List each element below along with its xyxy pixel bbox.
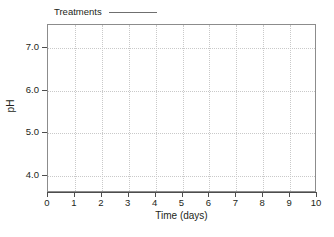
y-axis-tick [42, 90, 47, 91]
gridline-vertical [129, 25, 130, 191]
gridline-vertical [209, 25, 210, 191]
y-axis-tick-label: 7.0 [5, 41, 39, 52]
x-axis-tick-label: 1 [59, 197, 89, 208]
x-axis-tick-label: 3 [113, 197, 143, 208]
gridline-vertical [236, 25, 237, 191]
x-axis-tick-label: 6 [193, 197, 223, 208]
x-axis-title: Time (days) [47, 210, 316, 222]
x-axis-tick-label: 10 [301, 197, 331, 208]
gridline-horizontal [48, 48, 315, 49]
x-axis-tick-label: 2 [86, 197, 116, 208]
x-axis-tick-label: 5 [167, 197, 197, 208]
y-axis-title: pH [5, 98, 17, 114]
chart-figure: Treatments Time (days) pH 0123456789104.… [0, 0, 334, 237]
legend-line-swatch [109, 12, 157, 13]
gridline-vertical [75, 25, 76, 191]
y-axis-tick [42, 175, 47, 176]
legend-label-treatments: Treatments [54, 6, 102, 17]
gridline-vertical [263, 25, 264, 191]
gridline-vertical [156, 25, 157, 191]
plot-area [47, 24, 316, 192]
gridline-horizontal [48, 176, 315, 177]
gridline-vertical [102, 25, 103, 191]
gridline-vertical [183, 25, 184, 191]
gridline-vertical [290, 25, 291, 191]
y-axis-tick [42, 47, 47, 48]
x-axis-tick-label: 0 [32, 197, 62, 208]
x-axis-tick-label: 7 [220, 197, 250, 208]
x-axis-tick-label: 9 [274, 197, 304, 208]
x-axis-tick-label: 8 [247, 197, 277, 208]
chart-legend: Treatments [54, 4, 157, 18]
x-axis-tick-label: 4 [140, 197, 170, 208]
y-axis-tick-label: 6.0 [5, 84, 39, 95]
y-axis-tick-label: 4.0 [5, 169, 39, 180]
y-axis-tick [42, 132, 47, 133]
gridline-horizontal [48, 91, 315, 92]
y-axis-tick-label: 5.0 [5, 126, 39, 137]
gridline-horizontal [48, 133, 315, 134]
